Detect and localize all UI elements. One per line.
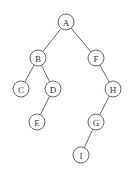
- node-label: A: [63, 18, 70, 28]
- tree-node-e: E: [29, 114, 45, 130]
- tree-node-d: D: [45, 81, 61, 97]
- node-label: C: [18, 85, 24, 95]
- edge-a-b: [43, 28, 61, 51]
- node-label: B: [35, 54, 41, 64]
- tree-node-b: B: [30, 50, 46, 66]
- edge-d-e: [40, 96, 49, 115]
- edge-b-c: [25, 65, 34, 82]
- node-label: H: [110, 85, 117, 95]
- binary-tree-diagram: ABFCDHEGI: [0, 0, 138, 175]
- tree-nodes: ABFCDHEGI: [13, 14, 121, 163]
- edge-g-i: [84, 129, 92, 147]
- tree-node-i: I: [73, 147, 89, 163]
- node-label: F: [93, 54, 98, 64]
- node-label: I: [80, 151, 83, 161]
- edge-a-f: [71, 28, 91, 52]
- edge-h-g: [100, 96, 110, 115]
- node-label: G: [93, 118, 100, 128]
- tree-node-f: F: [88, 50, 104, 66]
- tree-node-g: G: [88, 114, 104, 130]
- tree-node-a: A: [58, 14, 74, 30]
- edge-b-d: [41, 65, 49, 82]
- node-label: D: [50, 85, 57, 95]
- edge-f-h: [100, 65, 109, 82]
- tree-node-h: H: [105, 81, 121, 97]
- node-label: E: [34, 118, 40, 128]
- tree-node-c: C: [13, 81, 29, 97]
